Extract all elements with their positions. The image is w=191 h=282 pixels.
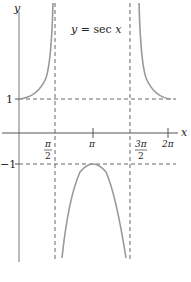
x-tick-label-2pi: 2π	[161, 139, 175, 149]
x-tick-label-pi-half-num: π	[44, 139, 52, 149]
x-tick-label-3pi-half-num: 3π	[135, 139, 148, 149]
x-tick-label-pi-half-den: 2	[45, 151, 51, 161]
y-axis-label: y	[13, 2, 21, 15]
chart-title: y = sec x	[70, 23, 122, 36]
y-tick-label-1: 1	[6, 93, 13, 106]
x-tick-label-pi: π	[88, 139, 96, 149]
sec-graph: y = sec x y x 1 −1 π 2 π 3π 2 2π	[0, 0, 191, 282]
x-axis-label: x	[181, 126, 188, 139]
y-tick-label-neg1: −1	[0, 158, 16, 171]
sec-branch-left	[19, 3, 53, 99]
sec-branch-right	[139, 3, 171, 99]
x-tick-label-3pi-half-den: 2	[138, 151, 144, 161]
sec-branch-middle	[62, 164, 126, 258]
